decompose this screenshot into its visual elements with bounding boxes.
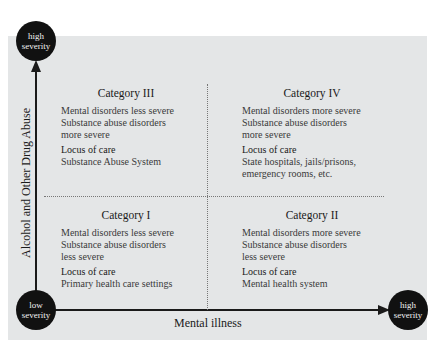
y-high-severity-marker: high severity (16, 21, 56, 61)
quadrant-text: Mental disorders more severe (242, 105, 392, 117)
quadrant-title: Category IV (232, 87, 392, 99)
quadrant-text: less severe (242, 251, 392, 263)
quadrant-text: Mental disorders more severe (242, 227, 392, 239)
horizontal-divider (44, 196, 384, 197)
quadrant-category-i: Category I Mental disorders less severe … (61, 209, 201, 290)
quadrant-title: Category III (51, 87, 201, 99)
quadrant-text: Mental disorders less severe (61, 105, 201, 117)
locus-text: Mental health system (242, 278, 392, 290)
marker-text: severity (16, 310, 56, 320)
vertical-divider (207, 84, 208, 310)
locus-text: State hospitals, jails/prisons, (242, 156, 392, 168)
locus-text: Substance Abuse System (61, 156, 201, 168)
quadrant-text: Substance abuse disorders (242, 239, 392, 251)
x-axis-label: Mental illness (174, 316, 242, 331)
marker-text: severity (16, 41, 56, 51)
quadrant-text: Mental disorders less severe (61, 227, 201, 239)
marker-text: high (388, 300, 428, 310)
marker-text: high (16, 31, 56, 41)
quadrant-title: Category II (232, 209, 392, 221)
locus-text: emergency rooms, etc. (242, 168, 392, 180)
marker-text: severity (388, 310, 428, 320)
quadrant-title: Category I (51, 209, 201, 221)
locus-label: Locus of care (242, 266, 392, 278)
quadrant-category-iii: Category III Mental disorders less sever… (61, 87, 201, 168)
marker-text: low (16, 300, 56, 310)
locus-label: Locus of care (61, 266, 201, 278)
quadrant-text: more severe (242, 129, 392, 141)
locus-text: Primary health care settings (61, 278, 201, 290)
quadrant-text: Substance abuse disorders (61, 239, 201, 251)
quadrant-category-iv: Category IV Mental disorders more severe… (242, 87, 392, 180)
quadrant-text: Substance abuse disorders (61, 117, 201, 129)
y-axis-arrow-icon (31, 60, 41, 72)
y-axis-label: Alcohol and Other Drug Abuse (19, 108, 34, 258)
locus-label: Locus of care (242, 144, 392, 156)
origin-low-severity-marker: low severity (16, 290, 56, 330)
y-axis-line (35, 66, 37, 310)
quadrant-text: less severe (61, 251, 201, 263)
quadrant-text: Substance abuse disorders (242, 117, 392, 129)
quadrant-text: more severe (61, 129, 201, 141)
diagram-background (8, 36, 427, 340)
quadrant-category-ii: Category II Mental disorders more severe… (242, 209, 392, 290)
locus-label: Locus of care (61, 144, 201, 156)
x-axis-line (36, 309, 386, 311)
x-high-severity-marker: high severity (388, 290, 428, 330)
